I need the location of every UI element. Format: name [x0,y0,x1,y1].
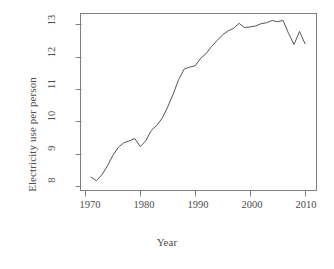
plot-frame [81,14,317,191]
axis-ticks [76,25,306,197]
data-series-group [91,20,305,180]
chart-plot: Electricity use per person Year 13 12 11… [0,0,334,269]
chart-canvas [0,0,334,269]
data-line-electricity-use [91,20,305,180]
